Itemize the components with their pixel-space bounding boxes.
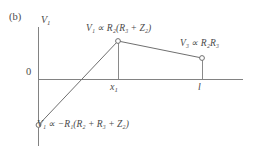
annotation-right: V₃ ∝ R₂R₃ (180, 39, 219, 49)
y-axis-tick-zero: 0 (26, 67, 31, 78)
annotation-peak: V₁ ∝ R₂(R₃ + Z₂) (86, 24, 151, 34)
x-axis-tick-l: l (198, 82, 201, 92)
figure-panel-b: (b) V1 0 V₁ ∝ R₂(R₃ + Z₂) V₃ ∝ R₂R₃ V₁ ∝… (0, 0, 254, 150)
x-axis-tick-x1: x1 (110, 82, 118, 93)
y-axis-label: V1 (41, 15, 51, 26)
y-axis-label-subscript: 1 (47, 19, 50, 26)
data-point-marker-peak (116, 39, 121, 44)
data-point-marker-right (200, 56, 205, 61)
plot-line-rising (39, 41, 119, 125)
annotation-bottom-left: V₁ ∝ −R₁(R₂ + R₃ + Z₂) (37, 120, 129, 130)
panel-tag: (b) (9, 12, 21, 23)
x-axis-tick-x1-subscript: 1 (114, 86, 117, 93)
